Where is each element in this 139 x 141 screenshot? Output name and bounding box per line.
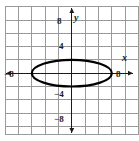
x-axis-name-label: x <box>122 53 127 63</box>
y-tick-label-neg4: −4 <box>54 90 64 99</box>
x-tick-label-neg8: −8 <box>4 70 14 79</box>
x-tick-label-8: 8 <box>116 70 121 79</box>
y-tick-label-8: 8 <box>57 17 62 26</box>
y-axis-name-label: y <box>74 13 78 23</box>
y-tick-label-4: 4 <box>59 42 64 51</box>
graph-figure: 8 4 −4 −8 −8 8 x y <box>0 0 139 141</box>
y-tick-label-neg8: −8 <box>54 115 64 124</box>
